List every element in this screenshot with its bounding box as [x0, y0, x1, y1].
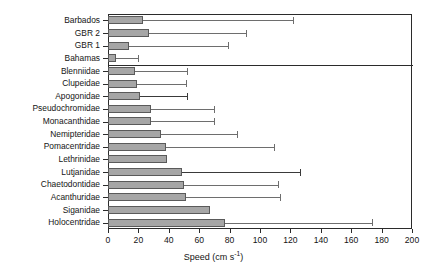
error-bar-line [149, 33, 246, 34]
bar [108, 168, 182, 176]
bar [108, 130, 161, 138]
y-axis-label: Pomacentridae [0, 140, 104, 153]
y-axis-label: Nemipteridae [0, 128, 104, 141]
y-axis-label: Holocentridae [0, 216, 104, 229]
bar [108, 219, 225, 227]
y-axis-label: Lethrinidae [0, 153, 104, 166]
y-axis-label: GBR 2 [0, 27, 104, 40]
error-bar-cap [278, 181, 279, 188]
chart-row [108, 52, 412, 65]
y-axis-label: Barbados [0, 14, 104, 27]
x-axis-tick-label: 180 [367, 235, 397, 245]
error-bar-line [143, 20, 293, 21]
y-axis-label: Clupeidae [0, 77, 104, 90]
y-axis-label: Bahamas [0, 52, 104, 65]
bar [108, 29, 149, 37]
error-bar-line [182, 172, 299, 173]
chart-row [108, 128, 412, 141]
x-axis-tick [351, 229, 352, 233]
chart-row [108, 166, 412, 179]
y-axis-label: Monacanthidae [0, 115, 104, 128]
bars-layer [108, 14, 412, 229]
chart-row [108, 102, 412, 115]
y-axis-label: GBR 1 [0, 39, 104, 52]
chart-row [108, 27, 412, 40]
x-axis-tick-label: 120 [275, 235, 305, 245]
error-bar-cap [214, 118, 215, 125]
error-bar-line [129, 46, 228, 47]
bar [108, 42, 129, 50]
x-axis-tick-label: 60 [184, 235, 214, 245]
x-axis-title: Speed (cm s-1) [0, 250, 427, 262]
x-axis-tick-label: 20 [123, 235, 153, 245]
error-bar-cap [228, 42, 229, 49]
error-bar-cap [187, 93, 188, 100]
error-bar-line [151, 109, 215, 110]
chart-row [108, 77, 412, 90]
x-axis-tick [290, 229, 291, 233]
bar [108, 54, 116, 62]
bar [108, 105, 151, 113]
x-axis-tick [138, 229, 139, 233]
x-axis-tick [230, 229, 231, 233]
x-axis-tick [321, 229, 322, 233]
bar [108, 92, 140, 100]
error-bar-line [135, 71, 187, 72]
error-bar-cap [274, 144, 275, 151]
y-axis-label: Siganidae [0, 204, 104, 217]
x-axis-tick [260, 229, 261, 233]
error-bar-cap [293, 17, 294, 24]
chart-row [108, 204, 412, 217]
x-axis-tick-label: 140 [306, 235, 336, 245]
group-separator-line [108, 65, 413, 66]
y-axis-category-labels: BarbadosGBR 2GBR 1BahamasBlenniidaeClupe… [0, 14, 104, 229]
chart-row [108, 39, 412, 52]
bar [108, 117, 151, 125]
error-bar-cap [246, 30, 247, 37]
error-bar-cap [138, 55, 139, 62]
chart-row [108, 153, 412, 166]
x-axis-title-base: Speed (cm s [184, 252, 235, 262]
error-bar-line [140, 96, 187, 97]
error-bar-line [166, 147, 274, 148]
error-bar-line [161, 134, 237, 135]
y-axis-label: Blenniidae [0, 65, 104, 78]
y-axis-label: Chaetodontidae [0, 178, 104, 191]
error-bar-cap [300, 169, 301, 176]
bar [108, 16, 143, 24]
chart-row [108, 115, 412, 128]
x-axis-tick [108, 229, 109, 233]
chart-row [108, 140, 412, 153]
error-bar-cap [186, 80, 187, 87]
x-axis-tick [382, 229, 383, 233]
error-bar-line [184, 185, 278, 186]
error-bar-cap [237, 131, 238, 138]
speed-bar-chart-figure: BarbadosGBR 2GBR 1BahamasBlenniidaeClupe… [0, 0, 427, 278]
chart-row [108, 191, 412, 204]
error-bar-cap [187, 68, 188, 75]
y-axis-label: Pseudochromidae [0, 102, 104, 115]
x-axis-tick-label: 40 [154, 235, 184, 245]
error-bar-cap [372, 219, 373, 226]
bar [108, 143, 166, 151]
error-bar-line [151, 121, 215, 122]
x-axis-tick-label: 200 [397, 235, 427, 245]
chart-row [108, 178, 412, 191]
error-bar-cap [280, 194, 281, 201]
x-axis-tick [169, 229, 170, 233]
x-axis-tick [412, 229, 413, 233]
x-axis-tick [199, 229, 200, 233]
error-bar-line [186, 197, 280, 198]
x-axis-tick-label: 80 [215, 235, 245, 245]
bar [108, 67, 135, 75]
x-axis-title-tail: ) [240, 252, 243, 262]
error-bar-cap [214, 106, 215, 113]
y-axis-label: Acanthuridae [0, 191, 104, 204]
bar [108, 206, 210, 214]
error-bar-line [225, 223, 372, 224]
chart-row [108, 90, 412, 103]
error-bar-line [137, 84, 186, 85]
x-axis-tick-label: 160 [336, 235, 366, 245]
bar [108, 193, 186, 201]
bar [108, 181, 184, 189]
